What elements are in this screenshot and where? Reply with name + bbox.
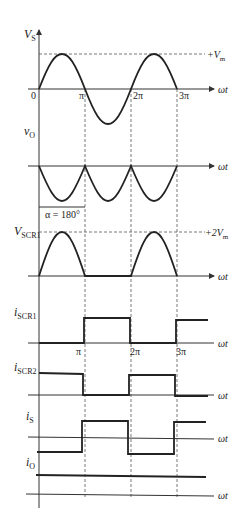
vo-wave (39, 166, 177, 201)
2vm-annotation: +2V (205, 227, 225, 238)
axis-label: ωt (218, 84, 228, 95)
svg-text:VSCR1: VSCR1 (14, 224, 40, 240)
svg-text:iS: iS (26, 409, 34, 425)
svg-text:ωt: ωt (218, 433, 228, 444)
waveform-diagram: VS +Vm 0 π 2π 3π ωt vO ωt α = 180° VSCR1… (0, 0, 239, 524)
svg-text:ωt: ωt (218, 390, 228, 401)
svg-text:ωt: ωt (218, 338, 228, 349)
svg-text:ωt: ωt (218, 490, 228, 501)
svg-text:ωt: ωt (218, 161, 228, 172)
svg-text:vO: vO (24, 124, 35, 140)
svg-text:π: π (76, 346, 81, 357)
is-axis (28, 437, 214, 439)
tick-pi: π (79, 90, 84, 101)
svg-text:2π: 2π (130, 346, 140, 357)
vscr1-wave (39, 232, 177, 276)
tick-0: 0 (31, 90, 36, 101)
tick-2pi: 2π (133, 90, 143, 101)
io-wave (36, 475, 206, 477)
svg-text:+2Vm: +2Vm (205, 227, 229, 241)
svg-text:iSCR1: iSCR1 (14, 305, 36, 321)
alpha-label: α = 180° (45, 209, 80, 220)
svg-text:+Vm: +Vm (207, 49, 226, 63)
tick-3pi: 3π (179, 90, 189, 101)
svg-text:iO: iO (26, 455, 35, 471)
svg-text:ωt: ωt (218, 271, 228, 282)
iscr1-wave (39, 318, 208, 343)
svg-text:3π: 3π (176, 346, 186, 357)
io-axis (26, 494, 214, 496)
svg-text:VS: VS (24, 27, 36, 43)
svg-text:iSCR2: iSCR2 (14, 360, 36, 376)
iscr2-wave (39, 373, 208, 396)
